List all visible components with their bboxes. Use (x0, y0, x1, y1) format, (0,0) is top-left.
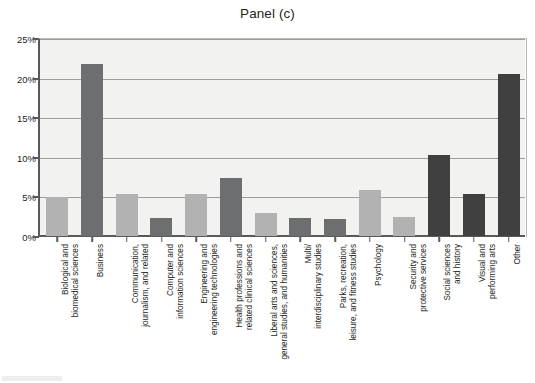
y-tick-mark (33, 157, 39, 159)
x-tick-mark (473, 237, 475, 242)
y-tick-label: 0% (4, 232, 36, 243)
bar-slot (318, 39, 353, 236)
x-tick-mark (369, 237, 371, 242)
y-tick-label: 25% (4, 34, 36, 45)
x-axis-label: Visual and performing arts (478, 244, 497, 374)
bar (324, 219, 346, 236)
bar-slot (283, 39, 318, 236)
x-axis-label: Security and protective services (409, 244, 428, 374)
x-tick-mark (404, 237, 406, 242)
bar (359, 190, 381, 236)
x-tick-mark (334, 237, 336, 242)
bar-slot (40, 39, 75, 236)
bar (463, 194, 485, 236)
bar-slot (491, 39, 526, 236)
y-tick-mark (33, 78, 39, 80)
plot-right-border (526, 38, 527, 237)
bar (81, 64, 103, 236)
x-tick-mark (57, 237, 59, 242)
x-axis-label: Parks, recreation, leisure, and fitness … (339, 244, 358, 374)
bar (428, 155, 450, 236)
bar-slot (352, 39, 387, 236)
y-tick-mark (33, 236, 39, 238)
bar (185, 194, 207, 236)
y-tick-mark (33, 196, 39, 198)
bar-slot (75, 39, 110, 236)
x-tick-mark (265, 237, 267, 242)
x-axis-label: Health professions and related clinical … (235, 244, 254, 374)
y-tick-label: 10% (4, 152, 36, 163)
y-tick-label: 20% (4, 73, 36, 84)
y-tick-label: 15% (4, 113, 36, 124)
bar-slot (144, 39, 179, 236)
bar-slot (109, 39, 144, 236)
bar (150, 218, 172, 236)
x-tick-mark (508, 237, 510, 242)
bar-slot (214, 39, 249, 236)
x-tick-mark (300, 237, 302, 242)
bar-slot (457, 39, 492, 236)
x-tick-mark (91, 237, 93, 242)
x-axis-label: Psychology (374, 244, 384, 374)
bar (116, 194, 138, 236)
bar-slot (248, 39, 283, 236)
bar (498, 74, 520, 236)
bar-slot (387, 39, 422, 236)
x-axis-label: Engineering and engineering technologies (200, 244, 219, 374)
bar (46, 197, 68, 236)
page-scan-artifact (2, 376, 62, 381)
x-axis-label: Multi/ interdisciplinary studies (304, 244, 323, 374)
x-axis-label: Communication, journalism, and related (131, 244, 150, 374)
x-tick-mark (126, 237, 128, 242)
chart-title: Panel (c) (0, 6, 535, 21)
x-tick-mark (438, 237, 440, 242)
x-axis-label: Computer and information sciences (166, 244, 185, 374)
x-tick-mark (195, 237, 197, 242)
x-tick-mark (230, 237, 232, 242)
bar (220, 178, 242, 236)
bar (289, 218, 311, 236)
x-axis-label: Liberal arts and sciences, general studi… (270, 244, 289, 374)
bar-slot (422, 39, 457, 236)
bar-series (40, 39, 526, 236)
bar-slot (179, 39, 214, 236)
x-axis-label: Biological and biomedical sciences (61, 244, 80, 374)
x-axis-labels: Biological and biomedical sciencesBusine… (40, 244, 526, 383)
bar-chart-figure: Panel (c) 25%20%15%10%5%0% Biological an… (0, 0, 535, 383)
y-tick-label: 5% (4, 192, 36, 203)
x-axis-ticks (40, 237, 526, 242)
bar (393, 217, 415, 236)
y-axis: 25%20%15%10%5%0% (0, 30, 36, 250)
x-axis-label: Social sciences and history (443, 244, 462, 374)
x-tick-mark (161, 237, 163, 242)
x-axis-label: Business (96, 244, 106, 374)
y-tick-mark (33, 117, 39, 119)
x-axis-label: Other (513, 244, 523, 374)
bar (255, 213, 277, 236)
y-tick-mark (33, 38, 39, 40)
